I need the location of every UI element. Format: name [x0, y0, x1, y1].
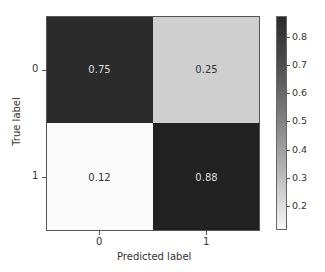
cb-tick-0.6: 0.6 [292, 87, 307, 98]
x-tick-0: 0 [96, 236, 102, 247]
y-tick-1: 1 [32, 170, 38, 181]
cb-tick-0.4: 0.4 [292, 144, 307, 155]
x-tick-1: 1 [203, 236, 209, 247]
cb-tick-0.7: 0.7 [292, 59, 307, 70]
cb-tick-0.2: 0.2 [292, 200, 307, 211]
plot-frame [46, 16, 260, 231]
y-tick-0: 0 [32, 63, 38, 74]
cb-tick-0.8: 0.8 [292, 31, 307, 42]
colorbar [276, 16, 287, 230]
x-axis-label: Predicted label [117, 251, 191, 262]
cb-tick-0.3: 0.3 [292, 172, 307, 183]
cb-tick-0.5: 0.5 [292, 115, 307, 126]
y-axis-label: True label [11, 97, 22, 146]
